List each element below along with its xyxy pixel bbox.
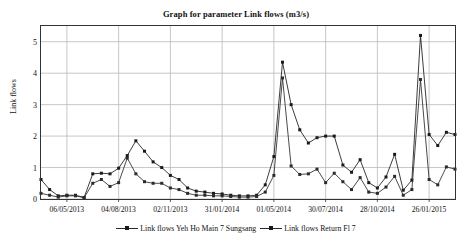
x-tick-label: 26/01/2015: [412, 205, 447, 214]
data-point-marker: [281, 61, 284, 64]
data-point-marker: [195, 194, 198, 197]
data-point-marker: [57, 196, 60, 199]
y-tick-label: 5: [33, 38, 37, 47]
data-point-marker: [307, 142, 310, 145]
series-line-1: [41, 78, 455, 198]
data-point-marker: [367, 181, 370, 184]
x-tick-label: 06/05/2013: [50, 205, 85, 214]
data-point-marker: [195, 190, 198, 193]
data-point-marker: [316, 168, 319, 171]
y-tick-label: 2: [33, 132, 37, 141]
data-point-marker: [341, 164, 344, 167]
data-point-marker: [333, 135, 336, 138]
data-point-marker: [91, 182, 94, 185]
data-point-marker: [100, 178, 103, 181]
data-point-marker: [324, 181, 327, 184]
data-point-marker: [117, 167, 120, 170]
data-point-marker: [255, 195, 258, 198]
data-point-marker: [393, 175, 396, 178]
y-tick-label: 4: [33, 69, 37, 78]
data-point-marker: [410, 188, 413, 191]
legend-item-0: Link flows Yeh Ho Main 7 Sungsang: [116, 224, 256, 233]
data-point-marker: [359, 158, 362, 161]
data-point-marker: [143, 180, 146, 183]
data-point-marker: [100, 172, 103, 175]
data-point-marker: [359, 176, 362, 179]
data-point-marker: [152, 182, 155, 185]
chart-legend: Link flows Yeh Ho Main 7 Sungsang Link f…: [0, 224, 472, 233]
data-point-marker: [290, 164, 293, 167]
x-tick-label: 31/01/2014: [205, 205, 240, 214]
data-point-marker: [385, 186, 388, 189]
series-line-0: [41, 35, 455, 197]
data-point-marker: [74, 194, 77, 197]
y-tick-label: 1: [33, 164, 37, 173]
data-point-marker: [281, 76, 284, 79]
y-tick-label: 3: [33, 101, 37, 110]
data-point-marker: [48, 188, 51, 191]
data-point-marker: [186, 192, 189, 195]
data-point-marker: [169, 174, 172, 177]
data-point-marker: [160, 182, 163, 185]
y-tick-labels: 012345: [33, 38, 37, 204]
data-point-marker: [393, 153, 396, 156]
data-point-marker: [445, 165, 448, 168]
y-tick-label: 0: [33, 195, 37, 204]
data-point-marker: [48, 194, 51, 197]
data-point-marker: [169, 186, 172, 189]
data-point-marker: [376, 192, 379, 195]
data-point-marker: [117, 181, 120, 184]
data-point-marker: [143, 150, 146, 153]
data-point-marker: [428, 133, 431, 136]
data-point-marker: [350, 171, 353, 174]
x-tick-label: 30/07/2014: [308, 205, 343, 214]
data-point-marker: [203, 191, 206, 194]
x-tick-label: 01/05/2014: [257, 205, 292, 214]
data-point-marker: [186, 186, 189, 189]
data-point-marker: [419, 34, 422, 37]
grid-layer: [41, 26, 455, 202]
data-point-marker: [436, 183, 439, 186]
chart-container: Graph for parameter Link flows (m3/s) Li…: [0, 0, 472, 242]
legend-label-0: Link flows Yeh Ho Main 7 Sungsang: [140, 225, 256, 233]
data-point-marker: [247, 196, 250, 199]
data-point-marker: [445, 131, 448, 134]
series-layer: [40, 34, 457, 199]
data-point-marker: [272, 174, 275, 177]
data-point-marker: [316, 136, 319, 139]
data-point-marker: [83, 196, 86, 199]
data-point-marker: [212, 194, 215, 197]
data-point-marker: [272, 155, 275, 158]
data-point-marker: [402, 194, 405, 197]
data-point-marker: [203, 194, 206, 197]
data-point-marker: [428, 178, 431, 181]
data-point-marker: [109, 172, 112, 175]
data-point-marker: [238, 196, 241, 199]
data-point-marker: [178, 178, 181, 181]
data-point-marker: [290, 103, 293, 106]
data-point-marker: [126, 157, 129, 160]
data-point-marker: [91, 172, 94, 175]
legend-marker-icon: [260, 224, 282, 233]
data-point-marker: [307, 172, 310, 175]
data-point-marker: [419, 78, 422, 81]
legend-item-1: Link flows Return Fl 7: [260, 224, 355, 233]
data-point-marker: [324, 135, 327, 138]
data-point-marker: [436, 144, 439, 147]
x-tick-label: 04/08/2013: [101, 205, 136, 214]
x-tick-labels: 06/05/201304/08/201302/11/201331/01/2014…: [50, 205, 447, 214]
data-point-marker: [298, 128, 301, 131]
x-tick-label: 02/11/2013: [153, 205, 188, 214]
data-point-marker: [109, 185, 112, 188]
legend-marker-icon: [116, 224, 138, 233]
data-point-marker: [367, 191, 370, 194]
plot-area: 012345 06/05/201304/08/201302/11/201331/…: [0, 0, 472, 242]
data-point-marker: [160, 166, 163, 169]
data-point-marker: [264, 183, 267, 186]
data-point-marker: [178, 188, 181, 191]
data-point-marker: [229, 195, 232, 198]
data-point-marker: [65, 194, 68, 197]
data-point-marker: [134, 139, 137, 142]
data-point-marker: [333, 172, 336, 175]
data-point-marker: [264, 191, 267, 194]
